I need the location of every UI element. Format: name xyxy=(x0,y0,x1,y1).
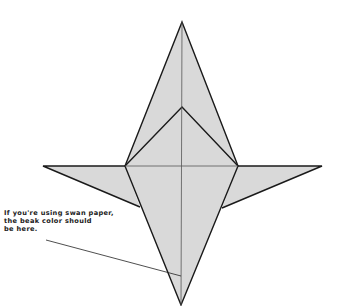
beak-color-annotation: If you're using swan paper, the beak col… xyxy=(4,209,154,234)
origami-diagram xyxy=(0,0,348,306)
